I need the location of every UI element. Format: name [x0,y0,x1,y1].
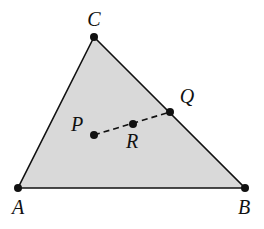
label-q: Q [180,85,195,107]
label-b: B [238,196,250,218]
triangle-abc [18,37,245,188]
label-c: C [87,8,101,30]
triangle-diagram: C Q P R A B [0,0,264,229]
point-c [90,33,98,41]
label-a: A [10,196,25,218]
point-q [166,108,174,116]
label-p: P [70,113,83,135]
point-r [129,120,137,128]
label-r: R [125,130,138,152]
point-a [14,184,22,192]
point-p [90,131,98,139]
point-b [241,184,249,192]
